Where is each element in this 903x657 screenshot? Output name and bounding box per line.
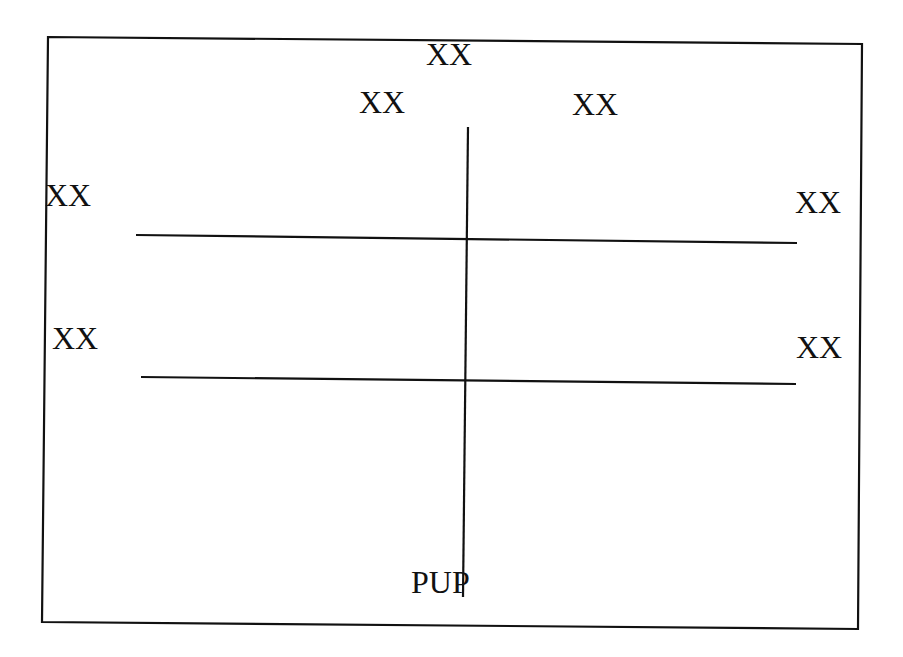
label-top-left: XX — [359, 84, 405, 120]
label-left-upper: XX — [45, 177, 91, 213]
label-left-lower: XX — [52, 320, 98, 356]
vertical-line — [463, 127, 468, 597]
outer-frame — [42, 37, 862, 629]
label-top-center: XX — [426, 36, 472, 72]
label-top-right: XX — [572, 86, 618, 122]
label-right-lower: XX — [796, 329, 842, 365]
label-bottom-pup: PUP — [411, 564, 470, 600]
diagram-canvas: XX XX XX XX XX XX XX PUP — [0, 0, 903, 657]
label-right-upper: XX — [795, 184, 841, 220]
lower-horizontal-line — [141, 377, 796, 384]
